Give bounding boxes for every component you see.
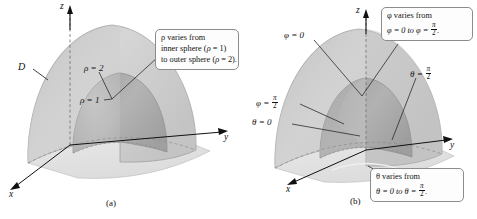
- callout-rho-line1: ρ varies from: [161, 33, 233, 44]
- phi-half-pi-label: φ = π2: [256, 95, 278, 110]
- callout-theta-line2-pre: θ = 0 to θ =: [376, 187, 418, 196]
- callout-theta-line2: θ = 0 to θ = π2.: [376, 183, 458, 198]
- x-axis-label-a: x: [9, 190, 13, 200]
- inner-sphere-label: ρ = 1: [80, 96, 99, 105]
- callout-rho-range: ρ varies from inner sphere (ρ = 1) to ou…: [155, 29, 239, 70]
- spherical-coordinates-figure: z y x D ρ = 2 ρ = 1 ρ varies from inner …: [0, 0, 477, 219]
- z-axis-label-b: z: [356, 6, 360, 16]
- callout-rho-line3: to outer sphere (ρ = 2).: [161, 55, 233, 66]
- phi-zero-label: φ = 0: [284, 31, 304, 40]
- callout-rho-line2: inner sphere (ρ = 1): [161, 44, 233, 55]
- callout-phi-range: φ varies from φ = 0 to φ = π2.: [381, 7, 473, 41]
- callout-phi-line1: φ varies from: [387, 11, 467, 22]
- outer-sphere-label: ρ = 2: [84, 64, 103, 73]
- theta-half-pi-label-pre: θ =: [410, 69, 425, 79]
- phi-fraction-denominator: 2: [272, 103, 278, 110]
- x-axis-label-b: x: [286, 185, 290, 195]
- region-label-d: D: [18, 62, 25, 73]
- z-axis-arrowhead-b: [363, 9, 369, 18]
- callout-phi-fraction-denominator: 2: [431, 30, 437, 37]
- callout-theta-line1: θ varies from: [376, 172, 458, 183]
- callout-rho-line2-pre: inner sphere (: [161, 44, 207, 53]
- theta-half-pi-fraction: π2: [426, 66, 432, 81]
- z-axis-arrowhead-a: [67, 5, 73, 14]
- panel-a: z y x D ρ = 2 ρ = 1 ρ varies from inner …: [0, 0, 240, 219]
- callout-phi-fraction: π2: [431, 22, 437, 37]
- leader-line-region-d: [33, 69, 48, 80]
- y-axis-label-b: y: [450, 141, 454, 151]
- phi-half-pi-fraction: π2: [272, 95, 278, 110]
- callout-theta-fraction-denominator: 2: [419, 191, 425, 198]
- callout-theta-range: θ varies from θ = 0 to θ = π2.: [370, 168, 464, 202]
- theta-half-pi-label: θ = π2: [410, 66, 432, 81]
- caption-b: (b): [350, 196, 361, 206]
- callout-phi-line2-pre: φ = 0 to φ =: [387, 26, 430, 35]
- panel-b: z y x φ = 0 φ = π2 θ = 0 θ = π2 φ varies…: [240, 0, 477, 219]
- y-axis-label-a: y: [224, 133, 228, 143]
- callout-phi-line2: φ = 0 to φ = π2.: [387, 22, 467, 37]
- callout-rho-line3-pre: to outer sphere (: [161, 55, 215, 64]
- callout-theta-fraction: π2: [419, 183, 425, 198]
- phi-half-pi-label-pre: φ =: [256, 98, 272, 108]
- callout-rho-line2-post: = 1): [211, 44, 227, 53]
- theta-zero-label: θ = 0: [252, 118, 272, 127]
- caption-a: (a): [106, 198, 116, 208]
- theta-fraction-denominator: 2: [426, 74, 432, 81]
- z-axis-label-a: z: [60, 2, 64, 12]
- callout-rho-line3-post: = 2).: [219, 55, 237, 64]
